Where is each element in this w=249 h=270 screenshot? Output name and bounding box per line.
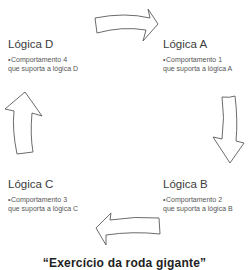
node-title: Lógica B — [163, 177, 233, 191]
desc-line-1: Comportamento 2 — [166, 196, 222, 203]
diagram-caption: “Exercício da roda gigante” — [0, 256, 249, 270]
desc-line-2: que suporta a lógica C — [8, 205, 78, 212]
desc-line-2: que suporta a lógica B — [163, 205, 233, 212]
node-title: Lógica A — [163, 37, 232, 51]
desc-line-2: que suporta a lógica D — [8, 65, 78, 72]
node-description: •Comportamento 3 que suporta a lógica C — [8, 196, 78, 213]
desc-line-1: Comportamento 1 — [166, 56, 222, 63]
desc-line-1: Comportamento 3 — [11, 196, 67, 203]
node-logica-a: Lógica A •Comportamento 1 que suporta a … — [163, 37, 232, 73]
curved-arrow-right-icon — [95, 9, 158, 41]
desc-line-1: Comportamento 4 — [11, 56, 67, 63]
node-logica-d: Lógica D •Comportamento 4 que suporta a … — [8, 37, 78, 73]
node-description: •Comportamento 4 que suporta a lógica D — [8, 56, 78, 73]
curved-arrow-left-icon — [96, 213, 160, 245]
node-title: Lógica C — [8, 177, 78, 191]
node-logica-b: Lógica B •Comportamento 2 que suporta a … — [163, 177, 233, 213]
curved-arrow-down-icon — [213, 96, 244, 163]
node-title: Lógica D — [8, 37, 78, 51]
node-logica-c: Lógica C •Comportamento 3 que suporta a … — [8, 177, 78, 213]
curved-arrow-up-icon — [5, 92, 42, 154]
desc-line-2: que suporta a lógica A — [163, 65, 232, 72]
node-description: •Comportamento 2 que suporta a lógica B — [163, 196, 233, 213]
node-description: •Comportamento 1 que suporta a lógica A — [163, 56, 232, 73]
